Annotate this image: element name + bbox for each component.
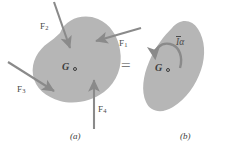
equals-sign: = <box>121 57 131 74</box>
centroid-label-a: G <box>62 61 69 72</box>
force-label-f3: F3 <box>17 84 26 94</box>
force-label-f4: F4 <box>98 104 107 114</box>
centroid-marker-a <box>73 67 77 71</box>
caption-panel-b: (b) <box>180 131 191 141</box>
centroid-label-b: G <box>155 62 162 73</box>
figure-graphics <box>0 0 229 153</box>
caption-panel-a: (a) <box>70 131 81 141</box>
centroid-marker-b <box>166 68 170 72</box>
rigid-body-shape-b <box>143 21 204 111</box>
figure-container: F1 F2 F3 F4 G = G Iα (a) (b) <box>0 0 229 153</box>
force-label-f1: F1 <box>119 38 128 48</box>
inertia-symbol: I <box>176 36 179 47</box>
force-label-f2: F2 <box>40 21 49 31</box>
inertia-alpha-label: Iα <box>176 36 184 47</box>
alpha-symbol: α <box>179 37 184 47</box>
